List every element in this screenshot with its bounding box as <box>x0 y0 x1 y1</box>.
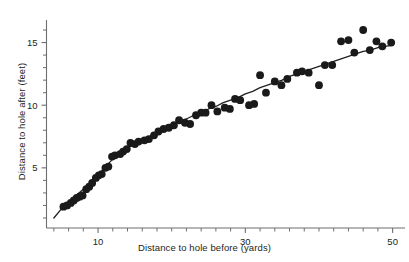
svg-text:5: 5 <box>32 162 37 173</box>
x-axis-ticks <box>54 228 393 233</box>
y-axis-tick-labels: 51015 <box>27 37 38 173</box>
svg-text:15: 15 <box>27 37 38 48</box>
plot-canvas: 103050 51015 <box>0 0 409 262</box>
scatter-plot-figure: 103050 51015 Distance to hole before (ya… <box>0 0 409 262</box>
svg-text:10: 10 <box>27 100 38 111</box>
y-axis-title: Distance to hole after (feet) <box>16 47 27 197</box>
trend-line <box>54 45 393 218</box>
data-point-markers <box>60 26 396 210</box>
x-axis-title: Distance to hole before (yards) <box>0 242 409 253</box>
y-axis-ticks <box>42 30 47 218</box>
